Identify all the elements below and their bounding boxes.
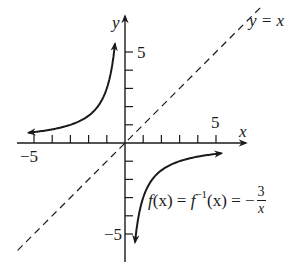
plot-area — [0, 0, 305, 269]
x-axis-label: x — [239, 123, 247, 140]
function-arg-1: (x) = — [153, 192, 191, 209]
function-label: f (x) = f −1 (x) = − 3 x — [148, 185, 266, 216]
x-tick-label-neg5: −5 — [20, 148, 38, 165]
fraction-denominator: x — [258, 201, 264, 216]
x-tick-label-5: 5 — [211, 114, 220, 131]
identity-line-label: y = x — [249, 12, 284, 29]
axes — [17, 16, 246, 262]
y-tick-label-5: 5 — [137, 44, 146, 61]
fraction-numerator: 3 — [257, 185, 266, 201]
y-axis-label: y — [112, 14, 120, 31]
inverse-superscript: −1 — [195, 189, 207, 200]
function-arg-2: (x) = − — [207, 192, 255, 209]
graph-figure: y x 5 −5 5 −5 y = x f (x) = f −1 (x) = −… — [0, 0, 305, 269]
left-branch-curve — [29, 44, 115, 133]
fraction-3-over-x: 3 x — [257, 185, 266, 216]
y-tick-label-neg5: −5 — [104, 226, 122, 243]
